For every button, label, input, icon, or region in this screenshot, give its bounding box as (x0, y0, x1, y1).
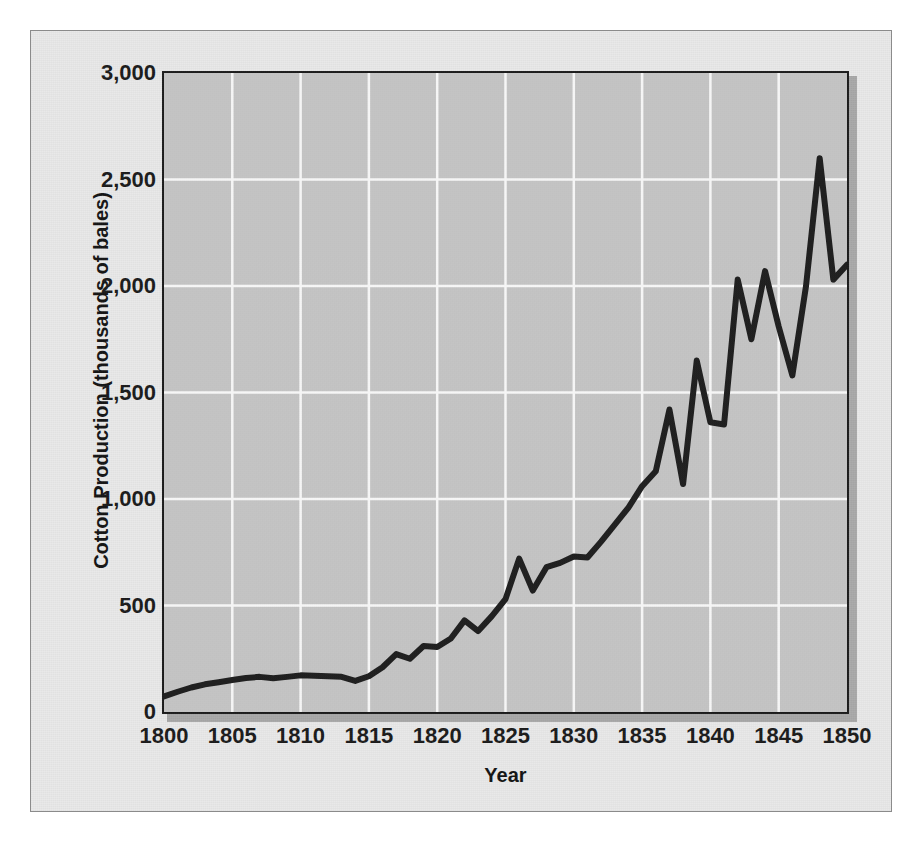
gridlines (164, 73, 847, 712)
y-axis-tick-label: 1,500 (64, 382, 156, 404)
plot-area (162, 71, 849, 714)
x-axis-title: Year (162, 764, 849, 787)
y-axis-tick-label: 2,000 (64, 275, 156, 297)
chart-canvas (164, 73, 847, 712)
y-axis-tick-label: 3,000 (64, 62, 156, 84)
y-axis-tick-label: 1,000 (64, 488, 156, 510)
y-axis-tick-label: 2,500 (64, 169, 156, 191)
y-axis-tick-label: 500 (64, 595, 156, 617)
x-axis-tick-labels: 1800180518101815182018251830183518401845… (162, 725, 849, 755)
figure-panel: Cotton Production (thousands of bales) 0… (30, 30, 892, 812)
chart-screenshot: Cotton Production (thousands of bales) 0… (0, 0, 923, 849)
y-axis-tick-labels: 05001,0001,5002,0002,5003,000 (53, 71, 156, 714)
y-axis-tick-label: 0 (64, 701, 156, 723)
x-axis-tick-label: 1850 (802, 725, 892, 747)
